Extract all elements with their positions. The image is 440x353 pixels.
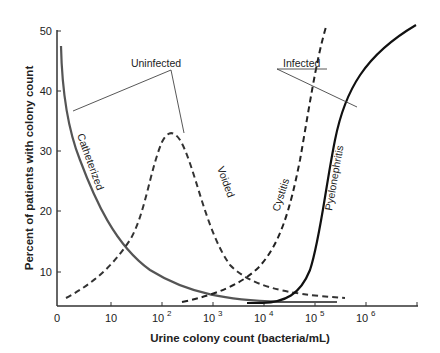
y-tick-labels: 50 40 30 20 10 (40, 25, 52, 278)
x-tick-10e4: 10 4 (254, 309, 274, 324)
infected-callout (277, 69, 357, 107)
svg-text:10: 10 (203, 312, 215, 324)
x-tick-10e5: 10 5 (305, 309, 325, 324)
svg-text:4: 4 (269, 309, 274, 318)
label-uninfected: Uninfected (131, 57, 181, 69)
svg-text:10: 10 (254, 312, 266, 324)
svg-text:10: 10 (356, 312, 368, 324)
y-tick-50: 50 (40, 25, 52, 37)
svg-text:3: 3 (218, 309, 223, 318)
y-tick-40: 40 (40, 85, 52, 97)
x-tick-0: 0 (54, 312, 60, 324)
label-infected: Infected (283, 57, 321, 69)
curve-voided (66, 133, 345, 298)
x-tick-10e3: 10 3 (203, 309, 223, 324)
x-tick-10e6: 10 6 (356, 309, 376, 324)
y-tick-20: 20 (40, 205, 52, 217)
x-tick-10: 10 (105, 312, 117, 324)
y-axis-title: Percent of patients with colony count (23, 66, 35, 271)
urine-colony-count-chart: 50 40 30 20 10 0 10 10 2 10 3 10 4 10 5 … (0, 0, 440, 353)
x-tick-10e2: 10 2 (152, 309, 172, 324)
y-tick-10: 10 (40, 266, 52, 278)
x-axis-title: Urine colony count (bacteria/mL) (150, 332, 330, 344)
uninfected-callout (73, 70, 184, 133)
svg-text:5: 5 (320, 309, 325, 318)
svg-text:10: 10 (152, 312, 164, 324)
label-pyelonephritis: Pyelonephritis (322, 144, 345, 211)
x-tick-labels: 0 10 10 2 10 3 10 4 10 5 10 6 (54, 309, 376, 324)
svg-text:6: 6 (371, 309, 376, 318)
svg-text:10: 10 (305, 312, 317, 324)
y-tick-30: 30 (40, 145, 52, 157)
label-voided: Voided (215, 165, 237, 199)
svg-text:2: 2 (167, 309, 172, 318)
